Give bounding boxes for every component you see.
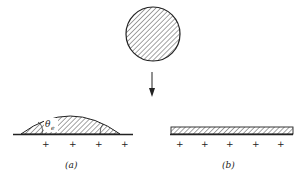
sessile-drop: [21, 116, 120, 134]
panel-a: θ e + + + + (a): [13, 116, 133, 170]
charge-plus: +: [176, 139, 184, 149]
charge-plus: +: [201, 139, 209, 149]
wetting-film: [171, 127, 293, 134]
charge-plus: +: [42, 139, 50, 149]
charge-plus: +: [95, 139, 103, 149]
charge-plus: +: [226, 139, 234, 149]
wetting-diagram: θ e + + + + (a) + + + + + (b): [0, 0, 304, 181]
charge-plus: +: [69, 139, 77, 149]
contact-angle-subscript: e: [51, 124, 55, 131]
charge-plus: +: [277, 139, 285, 149]
panel-b: + + + + + (b): [170, 127, 293, 170]
charge-plus: +: [121, 139, 129, 149]
panel-a-label: (a): [65, 160, 78, 170]
charge-plus: +: [252, 139, 260, 149]
panel-b-label: (b): [222, 160, 235, 170]
arrow-down-icon: [149, 72, 155, 97]
falling-droplet: [126, 7, 180, 61]
